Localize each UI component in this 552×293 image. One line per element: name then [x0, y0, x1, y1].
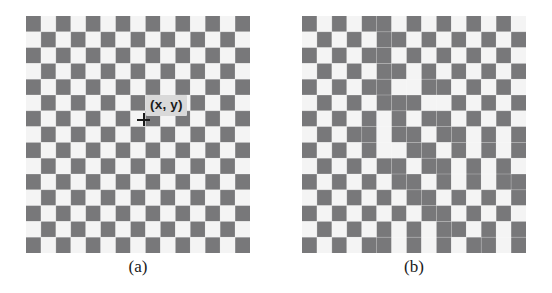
checkerboard-b: [302, 16, 526, 253]
panel-b: (x', y') (b): [276, 0, 552, 293]
panel-caption-b: (b): [276, 258, 552, 275]
panel-caption-a: (a): [0, 258, 276, 275]
figure-container: (x, y) (a) (x', y') (b): [0, 0, 552, 293]
checkerboard-a-wrapper: [26, 16, 250, 253]
checkerboard-a-svg: [26, 16, 250, 253]
checkerboard-a: [26, 16, 250, 253]
coordinate-label-a: (x, y): [146, 95, 187, 116]
panel-a: (x, y) (a): [0, 0, 276, 293]
checkerboard-b-svg: [302, 16, 526, 253]
checkerboard-b-wrapper: [302, 16, 526, 253]
